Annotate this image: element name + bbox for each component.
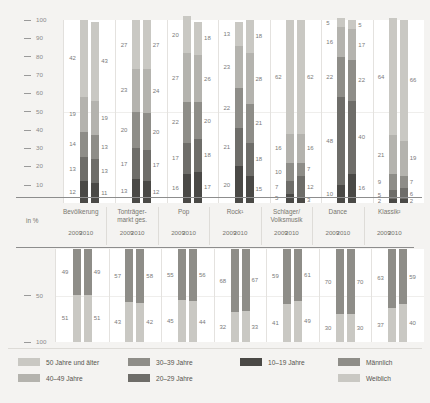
bar-segment [348,60,356,100]
category-separator [261,207,262,245]
bar-segment [91,22,99,101]
bar-value-label: 2 [378,198,381,204]
bar-value-label: 21 [378,152,385,158]
gender-value-label-male: 56 [199,272,206,278]
age-bar [348,20,356,203]
bar-value-label: 27 [121,42,128,48]
bar-segment [337,57,345,97]
bar-value-label: 26 [204,76,211,82]
age-bar [389,18,397,203]
bar-segment [143,113,151,150]
age-bar [297,20,305,203]
bar-value-label: 18 [204,35,211,41]
bar-segment [246,176,254,203]
bar-segment-female [84,295,92,342]
bar-segment [246,53,254,104]
bar-value-label: 20 [121,127,128,133]
year-label-2010: 2010 [331,230,355,236]
bar-segment-male [73,249,81,295]
bar-value-label: 6 [410,191,413,197]
gender-bar [336,249,344,342]
gender-bar [73,249,81,342]
bar-value-label: 27 [172,75,179,81]
bar-segment [246,20,254,53]
bar-segment [286,20,294,133]
bar-value-label: 17 [153,162,160,168]
group-separator [161,249,162,342]
category-label-1-line2: markt ges. [102,216,162,223]
bar-value-label: 12 [153,189,160,195]
bar-segment-male [189,249,197,301]
bar-segment-female [388,308,396,342]
age-axis-baseline [16,197,422,198]
gender-value-label-male: 57 [114,273,121,279]
bar-segment [91,101,99,136]
age-bar [400,20,408,203]
group-separator [321,20,322,203]
gender-bar [347,249,355,342]
bar-value-label: 9 [378,179,381,185]
age-bar [246,20,254,203]
bar-value-label: 42 [69,55,76,61]
bar-value-label: 19 [410,155,417,161]
bar-value-label: 20 [153,129,160,135]
y-tick-label: 40 [36,126,43,133]
bar-segment [132,179,140,203]
bar-segment [297,176,305,198]
bar-segment [80,157,88,181]
bar-value-label: 13 [224,31,231,37]
gender-value-label-male: 49 [62,269,69,275]
bar-segment-female [294,301,302,342]
bar-value-label: 18 [256,156,263,162]
age-bar [286,20,294,203]
bar-segment [337,27,345,56]
bar-segment-female [189,301,197,342]
bar-segment [183,16,191,53]
bar-segment [91,183,99,203]
bar-segment-male [178,249,186,300]
bar-segment-male [294,249,302,301]
group-separator [319,249,320,342]
bar-value-label: 19 [101,115,108,121]
bar-segment [297,163,305,176]
gender-value-label-female: 40 [409,320,416,326]
gender-bar [242,249,250,342]
bar-segment-female [136,303,144,342]
age-bar [132,20,140,203]
gridline-50 [64,112,424,113]
y-tick-label: 70 [36,71,43,78]
bar-segment [337,18,345,27]
bar-value-label: 16 [275,145,282,151]
bar-segment-male [283,249,291,304]
y-tick-80: 80 [24,54,43,60]
legend-swatch-cw [338,374,360,382]
bar-value-label: 12 [307,184,314,190]
bar-segment [286,194,294,203]
bar-value-label: 18 [204,152,211,158]
group-separator [270,20,271,203]
bar-segment [235,22,243,46]
age-bar [91,22,99,203]
gender-value-label-female: 43 [114,319,121,325]
bar-segment-female [399,304,407,342]
bar-value-label: 10 [275,169,282,175]
year-label-2010: 2010 [126,230,150,236]
bar-value-label: 18 [256,33,263,39]
category-separator [209,207,210,245]
bar-value-label: 16 [358,185,365,191]
category-label-6: Klassik² [359,208,419,215]
bar-value-label: 7 [275,184,278,190]
age-bar [235,22,243,203]
bar-segment [297,198,305,203]
bar-segment [389,199,397,203]
bar-segment [194,139,202,172]
gender-value-label-female: 30 [325,325,332,331]
y-tick-90: 90 [24,35,43,41]
bar-value-label: 22 [172,119,179,125]
bar-segment [194,22,202,55]
bar-segment-female [125,302,133,342]
bar-segment [183,53,191,102]
gender-bar [283,249,291,342]
year-label-2010: 2010 [280,230,304,236]
bar-segment [132,69,140,111]
